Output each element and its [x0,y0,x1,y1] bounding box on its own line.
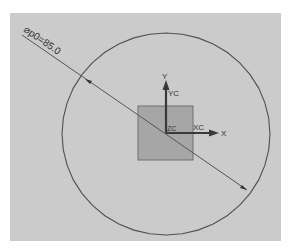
yc-axis-label: YC [168,89,179,98]
y-axis-label: Y [162,72,168,81]
cad-viewport[interactable]: ⌀p0=85.0 X XC Y YC ZC [0,0,290,249]
zc-axis-label: ZC [167,125,176,132]
x-axis-label: X [221,129,227,138]
xc-axis-label: XC [193,123,204,132]
